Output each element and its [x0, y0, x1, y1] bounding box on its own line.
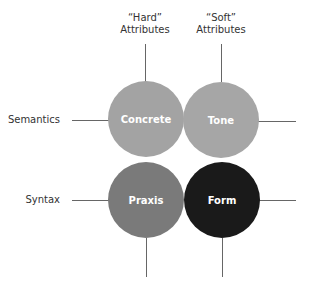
connector-line — [72, 120, 109, 121]
column-header-line2: Attributes — [105, 24, 185, 36]
circle-form: Form — [184, 162, 260, 238]
circle-label: Concrete — [121, 114, 172, 125]
column-header-hard: “Hard” Attributes — [105, 12, 185, 36]
row-label-semantics: Semantics — [0, 114, 60, 126]
connector-line — [221, 44, 222, 82]
circle-tone: Tone — [183, 82, 259, 158]
circle-concrete: Concrete — [108, 81, 184, 157]
connector-line — [259, 200, 296, 201]
column-header-line1: “Hard” — [105, 12, 185, 24]
connector-line — [145, 44, 146, 82]
circle-praxis: Praxis — [108, 162, 184, 238]
connector-line — [72, 200, 109, 201]
circle-label: Form — [208, 195, 237, 206]
connector-line — [222, 238, 223, 277]
column-header-line1: “Soft” — [181, 12, 261, 24]
column-header-soft: “Soft” Attributes — [181, 12, 261, 36]
circle-label: Tone — [208, 115, 234, 126]
column-header-line2: Attributes — [181, 24, 261, 36]
circle-label: Praxis — [129, 195, 164, 206]
connector-line — [146, 238, 147, 277]
connector-line — [258, 121, 296, 122]
row-label-syntax: Syntax — [0, 194, 60, 206]
